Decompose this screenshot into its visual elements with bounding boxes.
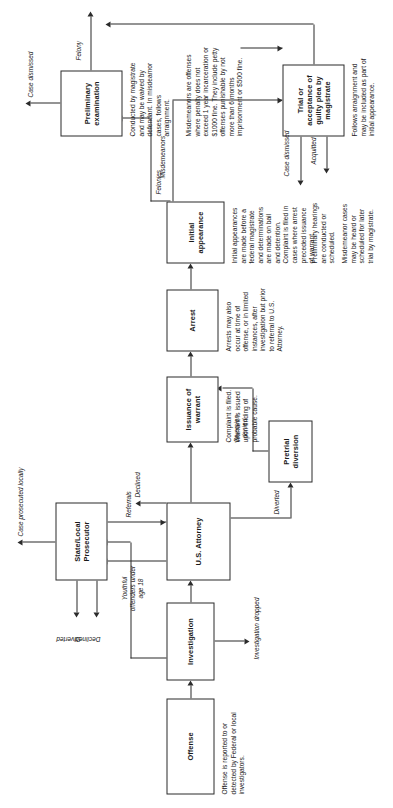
edge-ia-misdemeanors-h [172,100,173,201]
node-arrest[interactable]: Arrest [166,289,218,351]
node-preliminary-examination[interactable]: Preliminary examination [60,70,122,136]
edge-prelim-case-dismissed [30,102,60,103]
arrowhead-prelim-felony [87,11,93,16]
edge-prelim-felony-h [90,16,91,70]
node-offense[interactable]: Offense [166,698,214,794]
edge-slp-to-usa-referrals [107,521,166,522]
arrowhead-arrest-to-initial-appearance [187,263,193,268]
arrowhead-investigation-to-us-attorney [187,580,193,585]
arrowhead-offense-to-investigation [187,680,193,685]
node-issuance-of-warrant-label: Issuance of warrant [183,379,201,439]
edge-usa-to-diversion-v [230,517,290,518]
node-us-attorney-label: U.S. Attorney [193,517,202,565]
edge-slp-case-prosecuted-locally [22,541,55,542]
node-investigation[interactable]: Investigation [166,602,214,680]
node-us-attorney[interactable]: U.S. Attorney [166,502,230,580]
node-investigation-label: Investigation [185,618,194,665]
arrowhead-usa-declined [135,500,140,506]
edge-trial-acquitted [326,136,327,168]
edge-usa-to-warrant [190,447,191,502]
edge-label-declined-usa: Declined [133,472,141,497]
node-initial-appearance[interactable]: Initial appearance [166,201,224,263]
node-preliminary-examination-label: Preliminary examination [82,73,100,133]
edge-slp-diverted [76,580,77,612]
arrowhead-warrant-to-arrest [187,351,193,356]
edge-label-investigation-dropped: Investigation dropped [252,596,260,660]
edge-warrant-to-arrest [190,356,191,376]
node-arrest-description: Arrests may also occur at time of offens… [224,285,284,351]
edge-label-case-dismissed-trial: Case dismissed [282,130,290,176]
edge-investigation-to-us-attorney [190,585,191,602]
edge-diversion-denied-v1 [252,450,268,451]
arrowhead-case-prosecuted-locally [17,539,22,545]
node-pretrial-diversion-label: Pretrial diversion [281,423,299,479]
edge-trial-onward-v [110,23,313,24]
edge-trial-case-dismissed [300,136,301,180]
edge-investigation-dropped-stem [214,640,244,641]
edge-label-case-dismissed-prelim: Case dismissed [26,51,34,97]
arrowhead-usa-to-diversion [287,482,293,487]
node-initial-appearance-description-2: Preliminary hearings are conducted or sc… [310,201,336,263]
node-trial-or-guilty-plea[interactable]: Trial or acceptance of guilty plea by ma… [282,64,344,136]
edge-slp-declined [96,580,97,612]
edge-label-case-prosecuted-locally: Case prosecuted locally [16,467,24,536]
arrowhead-usa-to-warrant [187,442,193,447]
arrowhead-slp-declined [93,612,99,617]
arrowhead-slp-diverted [73,612,79,617]
edge-label-misdemeanors: Misdemeanors [158,135,166,178]
arrowhead-prelim-case-dismissed [25,100,30,106]
arrowhead-trial-case-dismissed [297,180,303,185]
node-state-local-prosecutor[interactable]: State/Local Prosecutor [55,502,107,580]
edge-incoming-to-trial [240,47,282,48]
node-initial-appearance-description-3: Misdemeanor cases may be heard or schedu… [340,201,374,263]
edge-usa-declined [140,502,166,503]
arrowhead-ia-misdemeanors [277,97,282,103]
edge-label-diverted-slp: Diverted [56,634,80,642]
node-trial-or-guilty-plea-label: Trial or acceptance of guilty plea by ma… [295,67,331,133]
edge-label-youthful-offenders: Youthful offenders under age 18 [120,564,144,612]
edge-label-diverted-pretrial: Diverted [272,490,280,514]
node-initial-appearance-description-1: Initial appearances are made before a fe… [230,201,316,263]
edge-offense-to-investigation [190,685,191,698]
edge-label-referrals: Referrals [124,491,132,517]
edge-usa-to-diversion-h [290,487,291,518]
node-offense-description: Offense is reported to or detected by Fe… [220,698,246,794]
note-misdemeanors: Misdemeanors are offenses where penalty … [184,44,244,136]
node-pretrial-diversion[interactable]: Pretrial diversion [268,420,312,482]
edge-label-diversion-denied: Diversion denied [232,406,248,450]
edge-label-felony: Felony [74,40,82,60]
node-initial-appearance-label: Initial appearance [186,204,204,260]
flowchart-canvas: Offense Offense is reported to or detect… [0,0,393,808]
diagram-rotation-wrapper: Offense Offense is reported to or detect… [0,0,393,808]
arrowhead-trial-acquitted [323,168,329,173]
node-state-local-prosecutor-label: State/Local Prosecutor [72,505,90,577]
node-offense-label: Offense [185,732,194,760]
edge-label-acquitted: Acquitted [309,137,317,164]
edge-trial-onward-h [313,24,314,64]
edge-usa-to-slp-youthful [107,560,166,561]
node-arrest-label: Arrest [187,309,196,331]
arrowhead-trial-onward [105,21,110,27]
edge-arrest-to-initial-appearance [190,268,191,289]
node-preliminary-examination-description: Conducted by magistrate and may be waive… [128,56,171,136]
node-trial-or-guilty-plea-description: Follows arraignment and may be included … [350,50,376,136]
edge-investigation-to-slp-v2 [107,541,130,542]
arrowhead-incoming-to-trial [277,45,282,51]
arrowhead-slp-to-usa-referrals [160,519,165,525]
node-issuance-of-warrant[interactable]: Issuance of warrant [166,376,218,442]
arrowhead-investigation-dropped [244,638,249,644]
